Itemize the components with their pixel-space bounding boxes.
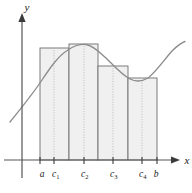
riemann-sum-figure: y x a c1 c2 c3 c4 b [0,0,192,193]
figure-canvas: y x a c1 c2 c3 c4 b [0,0,192,193]
y-axis [18,13,25,178]
tick-label-b-base: b [154,169,159,179]
tick-label-c2-sub: 2 [85,173,88,180]
x-axis-label: x [184,154,190,166]
x-tick-labels: a c1 c2 c3 c4 b [40,169,159,180]
rectangle-group [40,44,157,160]
tick-label-a-base: a [40,169,45,179]
tick-label-c4-sub: 4 [143,173,147,180]
rectangle-c4 [128,78,157,160]
tick-label-c3: c3 [110,169,117,180]
tick-label-c1-sub: 1 [56,173,59,180]
tick-label-b: b [154,169,159,179]
tick-label-c2: c2 [81,169,88,180]
rectangle-c2 [69,44,98,160]
tick-label-c4: c4 [139,169,147,180]
tick-label-a: a [40,169,45,179]
tick-label-c3-sub: 3 [114,173,117,180]
rectangle-c1 [40,48,69,160]
x-axis-arrow [171,156,180,163]
y-axis-label: y [24,1,30,13]
tick-label-c1: c1 [52,169,59,180]
y-axis-arrow [18,13,25,22]
